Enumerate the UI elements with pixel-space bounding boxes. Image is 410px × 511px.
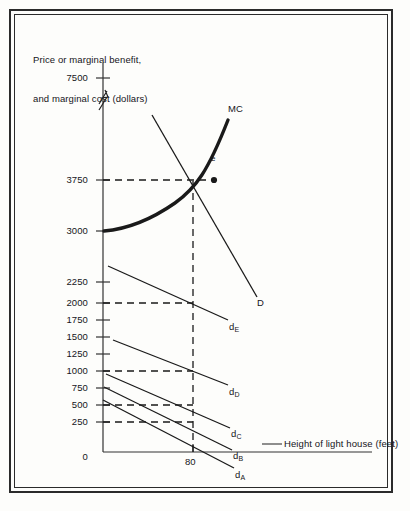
d-e-curve: [108, 266, 228, 320]
equilibrium-point-marker: [211, 177, 217, 183]
d-d-subscript: D: [234, 391, 239, 398]
d-d-curve: [113, 340, 228, 385]
d-b-subscript: B: [238, 455, 243, 462]
x-tick-label-80: 80: [185, 456, 196, 467]
y-tick-label-1250: 1250: [42, 348, 88, 359]
d-a-curve-label: dA: [235, 469, 245, 480]
y-tick-label-1750: 1750: [42, 314, 88, 325]
d-b-curve: [104, 387, 232, 450]
equilibrium-point-label: e: [211, 154, 215, 163]
y-tick-label-500: 500: [42, 399, 88, 410]
d-c-curve: [106, 374, 230, 428]
mc-curve-label: MC: [228, 103, 243, 114]
origin-label: 0: [42, 451, 88, 462]
y-tick-label-750: 750: [42, 382, 88, 393]
figure-page: Price or marginal benefit, and marginal …: [0, 0, 410, 511]
y-tick-label-2250: 2250: [42, 276, 88, 287]
d-a-curve: [103, 400, 234, 468]
y-tick-label-7500: 7500: [42, 72, 88, 83]
d-c-subscript: C: [236, 433, 241, 440]
x-axis-title: Height of light house (feet): [284, 438, 398, 449]
y-tick-label-2000: 2000: [42, 297, 88, 308]
y-tick-label-3750: 3750: [42, 174, 88, 185]
y-tick-label-1000: 1000: [42, 365, 88, 376]
y-tick-label-1500: 1500: [42, 331, 88, 342]
y-tick-label-3000: 3000: [42, 225, 88, 236]
y-tick-label-250: 250: [42, 416, 88, 427]
d-d-curve-label: dD: [229, 386, 240, 397]
d-market-curve-label: D: [257, 297, 264, 308]
d-c-curve-label: dC: [231, 428, 242, 439]
dashed-guide-lines: [103, 180, 213, 452]
d-e-curve-label: dE: [229, 321, 239, 332]
d-e-subscript: E: [234, 326, 239, 333]
d-b-curve-label: dB: [233, 450, 243, 461]
d-a-subscript: A: [240, 474, 245, 481]
